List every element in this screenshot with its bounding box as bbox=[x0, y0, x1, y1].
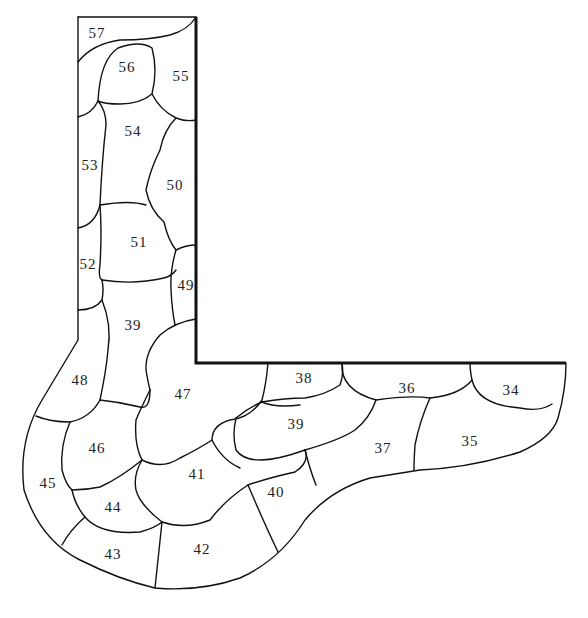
stone-label: 56 bbox=[119, 59, 136, 75]
stone-joint bbox=[78, 101, 98, 117]
stone-joint bbox=[62, 517, 85, 545]
stone-label: 36 bbox=[399, 380, 416, 396]
stone-label: 39 bbox=[125, 317, 142, 333]
stone-layout-diagram: 5756555453505152493948473836343946373541… bbox=[0, 0, 588, 618]
stone-joint bbox=[176, 245, 196, 250]
stone-joint bbox=[162, 450, 306, 526]
wall-edge bbox=[196, 17, 566, 363]
stone-joint bbox=[78, 205, 100, 228]
stone-label: 41 bbox=[189, 466, 206, 482]
stone-label: 34 bbox=[503, 382, 520, 398]
stone-label: 42 bbox=[194, 541, 211, 557]
stone-label: 43 bbox=[105, 546, 122, 562]
stone-label: 46 bbox=[89, 440, 106, 456]
stone-label: 55 bbox=[173, 68, 190, 84]
stone-label: 50 bbox=[167, 177, 184, 193]
stone-joint bbox=[136, 363, 268, 465]
stone-label: 57 bbox=[89, 25, 106, 41]
stone-label: 53 bbox=[82, 157, 99, 173]
stone-joint bbox=[171, 250, 176, 325]
stone-label: 37 bbox=[375, 440, 392, 456]
stone-joint bbox=[305, 450, 316, 485]
stone-joint bbox=[100, 203, 146, 206]
stone-joint bbox=[62, 422, 72, 490]
stone-joint bbox=[102, 270, 176, 282]
stone-label: 39 bbox=[288, 416, 305, 432]
stone-label: 38 bbox=[296, 370, 313, 386]
stone-label: 44 bbox=[105, 499, 122, 515]
stone-joint bbox=[135, 460, 162, 522]
stone-joint bbox=[212, 440, 240, 468]
stone-joint bbox=[100, 300, 109, 400]
stone-joint bbox=[305, 400, 376, 450]
stone-label: 51 bbox=[131, 234, 148, 250]
stone-label: 47 bbox=[175, 386, 192, 402]
stone-joint bbox=[78, 280, 103, 310]
stone-label: 40 bbox=[268, 484, 285, 500]
stone-label: 48 bbox=[72, 372, 89, 388]
stone-joint bbox=[36, 400, 100, 422]
stone-joint bbox=[262, 402, 300, 406]
stone-label: 49 bbox=[178, 277, 195, 293]
wall-edge-group bbox=[196, 17, 566, 363]
stone-joint bbox=[99, 205, 102, 280]
stone-joint bbox=[98, 101, 106, 205]
stone-joint bbox=[414, 398, 430, 470]
stone-label: 45 bbox=[40, 475, 57, 491]
stone-label: 54 bbox=[125, 123, 142, 139]
stone-joint bbox=[236, 363, 343, 418]
stone-joint bbox=[146, 319, 196, 390]
diagram-svg: 5756555453505152493948473836343946373541… bbox=[0, 0, 588, 618]
stone-label: 52 bbox=[80, 256, 97, 272]
stone-label: 35 bbox=[462, 433, 479, 449]
stone-joint bbox=[72, 460, 142, 490]
stone-joint bbox=[152, 94, 196, 121]
stone-joint bbox=[155, 522, 162, 588]
